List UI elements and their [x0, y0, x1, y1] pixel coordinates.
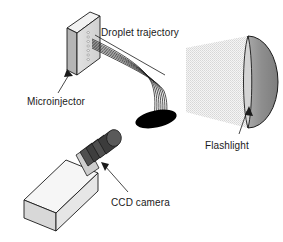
label-ccd-camera: CCD camera — [111, 197, 170, 208]
label-microinjector: Microinjector — [27, 96, 86, 107]
figure-canvas: Droplet trajectory Microinjector Flashli… — [0, 0, 283, 242]
label-droplet-trajectory: Droplet trajectory — [101, 27, 179, 38]
light-cone — [186, 36, 248, 128]
label-flashlight: Flashlight — [205, 140, 249, 151]
